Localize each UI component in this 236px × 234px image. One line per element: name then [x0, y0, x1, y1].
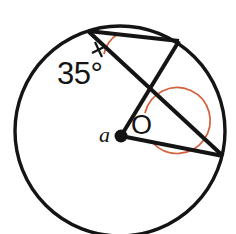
central-angle-label: a [99, 124, 110, 146]
center-point-label: O [131, 112, 152, 139]
geometry-canvas [0, 0, 236, 234]
inscribed-angle-label: 35° [57, 58, 102, 89]
geometry-figure: 35° O a [0, 0, 236, 234]
center-point-dot [115, 130, 128, 143]
